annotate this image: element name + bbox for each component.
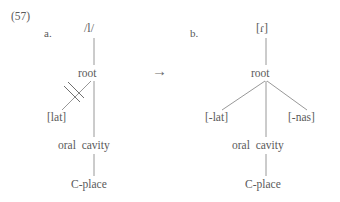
tree-a-line-root-to-lat [62,81,91,110]
tree-b-line-root-to-minus-nas [267,81,307,110]
phonology-rule-figure: (57) a. /l/ root [lat] oral cavity C-pla… [0,0,340,202]
tree-b-line-root-to-minus-lat [222,81,265,110]
association-lines [0,0,340,202]
